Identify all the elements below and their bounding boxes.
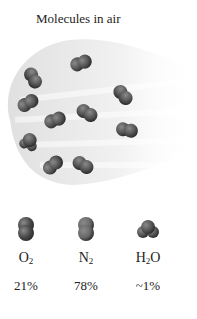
legend-label-o2: O2 (1, 250, 51, 266)
h2o-legend-icon (136, 216, 160, 242)
legend-percent-o2: 21% (1, 278, 51, 294)
o2-legend-icon (14, 216, 38, 242)
legend-percent-n2: 78% (61, 278, 111, 294)
legend-label-n2: N2 (61, 250, 111, 266)
legend-label-h2o: H2O (123, 250, 173, 266)
title: Molecules in air (36, 11, 120, 27)
air-plume (0, 35, 197, 195)
n2-legend-icon (74, 216, 98, 242)
legend-percent-h2o: ~1% (123, 278, 173, 294)
